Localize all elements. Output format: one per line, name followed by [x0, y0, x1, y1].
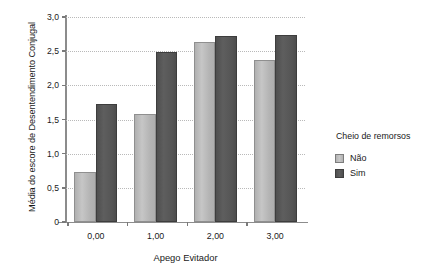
y-tick-label: 1,0 — [47, 149, 59, 158]
y-tick-mark — [62, 153, 66, 155]
legend-item-sim: Sim — [335, 168, 445, 178]
x-tick-label: 1,00 — [147, 232, 164, 241]
x-tick-mark — [187, 222, 189, 226]
y-tick-mark — [62, 221, 66, 223]
x-tick-label: 0,00 — [87, 232, 104, 241]
bar-chart-figure: Média do escore de Desentendimento Conju… — [0, 0, 448, 279]
y-tick-label: 1,5 — [47, 115, 59, 124]
bar-sim-100 — [156, 52, 178, 222]
y-tick-label: 0,5 — [47, 184, 59, 193]
bar-no-000 — [74, 172, 96, 222]
y-tick-mark — [62, 50, 66, 52]
legend-swatch-icon — [335, 169, 344, 178]
x-tick-mark — [246, 222, 248, 226]
legend-item-label: Sim — [350, 168, 366, 178]
legend: Cheio de remorsos NãoSim — [335, 131, 445, 183]
y-tick-mark — [62, 85, 66, 87]
plot-area: 00,51,01,52,02,53,00,001,002,003,00 — [66, 17, 305, 222]
bar-sim-000 — [96, 104, 118, 222]
y-axis-title: Média do escore de Desentendimento Conju… — [22, 3, 42, 231]
bar-no-100 — [134, 114, 156, 222]
y-tick-mark — [62, 119, 66, 121]
x-tick-mark — [127, 222, 129, 226]
gridline — [66, 51, 305, 52]
x-tick-label: 3,00 — [267, 232, 284, 241]
gridline — [66, 17, 305, 18]
legend-title: Cheio de remorsos — [336, 131, 445, 141]
y-tick-label: 2,5 — [47, 47, 59, 56]
y-tick-label: 2,0 — [47, 81, 59, 90]
legend-swatch-icon — [335, 154, 344, 163]
legend-item-label: Não — [350, 153, 367, 163]
y-tick-mark — [62, 187, 66, 189]
y-tick-label: 0 — [54, 218, 59, 227]
bar-no-200 — [194, 42, 216, 222]
y-tick-mark — [62, 16, 66, 18]
bar-sim-200 — [215, 36, 237, 222]
x-axis-title: Apego Evitador — [66, 252, 305, 263]
x-tick-label: 2,00 — [207, 232, 224, 241]
bar-no-300 — [254, 60, 276, 222]
y-tick-label: 3,0 — [47, 13, 59, 22]
bar-sim-300 — [275, 35, 297, 222]
legend-item-no: Não — [335, 153, 445, 163]
x-tick-mark — [67, 222, 69, 226]
